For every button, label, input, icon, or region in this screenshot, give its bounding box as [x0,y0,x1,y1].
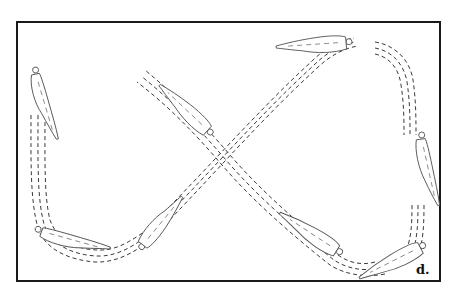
body-outline-3 [276,34,353,57]
body-outline-6 [134,191,187,253]
figure-label: d. [416,262,430,277]
track-6 [375,54,404,135]
figure-eight-diagram [0,0,458,297]
track-12 [137,82,385,276]
track-2 [38,42,356,256]
track-7 [406,205,412,250]
track-3 [45,38,354,250]
body-outline-7 [275,208,346,261]
track-4 [375,42,416,135]
diagram-stage: d. [0,0,458,297]
trajectory-paths [31,38,424,276]
body-outline-2 [153,80,217,140]
body-outline-4 [414,131,440,207]
track-5 [375,48,410,135]
body-outline-1 [28,65,59,142]
